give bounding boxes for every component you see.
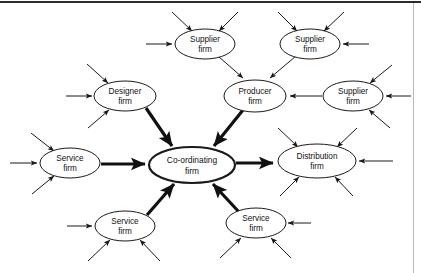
node-label-line1: Co-ordinating — [167, 155, 218, 165]
node-label-line2: firm — [185, 166, 199, 176]
node-service-left[interactable]: Service firm — [40, 148, 100, 178]
edge-service-bottom-left-coordinating — [147, 184, 174, 215]
node-label-line1: Designer — [109, 87, 142, 96]
inflow-arrow — [88, 110, 109, 128]
node-label-line2: firm — [346, 97, 360, 106]
node-label-line1: Supplier — [190, 35, 220, 44]
node-supplier-right[interactable]: Supplier firm — [323, 81, 383, 111]
node-supplier-top-left[interactable]: Supplier firm — [175, 29, 235, 59]
node-label-line2: firm — [198, 45, 212, 54]
node-label-line2: firm — [63, 164, 77, 173]
node-label-line2: firm — [248, 97, 262, 106]
node-label-line2: firm — [249, 224, 263, 233]
inflow-arrow — [337, 128, 357, 147]
inflow-arrow — [31, 133, 54, 151]
node-label-line1: Supplier — [295, 35, 325, 44]
node-label-line1: Service — [111, 217, 139, 226]
node-label-line1: Producer — [238, 87, 271, 96]
diagram-page: Supplier firm Supplier firm Supplier fir… — [0, 0, 421, 273]
inflow-arrow — [280, 177, 299, 196]
inflow-arrow — [370, 65, 392, 83]
node-supplier-top-right[interactable]: Supplier firm — [280, 29, 340, 59]
node-producer[interactable]: Producer firm — [224, 80, 286, 112]
inflow-arrow — [369, 110, 390, 128]
node-label-line2: firm — [310, 162, 324, 171]
edge-producer-coordinating — [214, 110, 243, 146]
node-label-line2: firm — [118, 97, 132, 106]
inflow-arrow — [88, 240, 110, 261]
inflow-arrow — [87, 64, 108, 83]
inflow-arrow — [278, 12, 297, 31]
node-coordinating[interactable]: Co-ordinating firm — [149, 147, 235, 183]
inflow-arrow — [172, 12, 192, 31]
inflow-arrow — [271, 238, 291, 258]
inflow-arrow — [219, 12, 238, 31]
edge-designer-coordinating — [146, 108, 172, 146]
inflow-arrow — [335, 177, 353, 196]
node-label-line2: firm — [118, 227, 132, 236]
node-label-line1: Distribution — [297, 152, 338, 161]
node-service-bottom-right[interactable]: Service firm — [226, 208, 286, 238]
inflow-arrow — [324, 12, 344, 31]
edge-supplier-top-right-producer — [270, 56, 296, 78]
inflow-arrow — [278, 128, 298, 147]
edge-service-bottom-right-coordinating — [213, 184, 239, 212]
node-distribution[interactable]: Distribution firm — [278, 144, 356, 178]
node-service-bottom-left[interactable]: Service firm — [95, 211, 155, 241]
inflow-arrow — [220, 238, 241, 258]
node-designer[interactable]: Designer firm — [94, 81, 156, 111]
network-diagram: Supplier firm Supplier firm Supplier fir… — [0, 0, 421, 273]
node-label-line2: firm — [303, 45, 317, 54]
node-label-line1: Service — [242, 214, 270, 223]
inflow-arrow — [32, 176, 54, 194]
node-label-line1: Supplier — [338, 87, 368, 96]
edge-supplier-top-left-producer — [218, 56, 243, 78]
node-label-line1: Service — [56, 154, 84, 163]
inflow-arrow — [140, 240, 160, 261]
